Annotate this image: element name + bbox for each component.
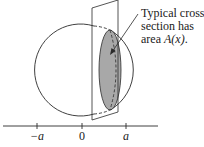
caption-line-3: area A(x). [141,33,204,46]
sphere-outline [35,24,94,116]
tick-label-a: a [123,129,129,144]
caption-area-function: A(x) [164,32,185,46]
solid-cross-section-diagram: Typical cross section has area A(x). −a … [0,0,204,147]
sphere-hidden-edge [94,26,110,30]
pointer-arrow-line [112,14,138,52]
caption-area-word: area [141,32,164,46]
caption-period: . [185,32,188,46]
tick-label-zero: 0 [79,129,85,144]
sphere-hidden-edge-bottom [94,110,110,114]
tick-label-neg-a: −a [30,129,44,144]
cross-section-caption: Typical cross section has area A(x). [141,7,204,46]
